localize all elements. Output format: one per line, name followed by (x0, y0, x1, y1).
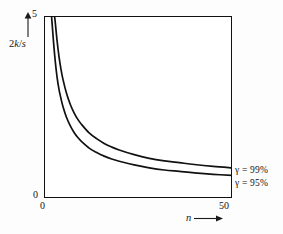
x-axis-tick-min: 0 (40, 201, 45, 211)
y-axis-title: 2k/s (9, 38, 26, 49)
x-axis-title-symbol: n (186, 212, 191, 223)
chart-figure: 2k/s 5 0 0 50 γ = 99% γ = 95% n (0, 0, 283, 234)
x-axis-tick-max: 50 (219, 201, 229, 211)
legend-item-gamma-99: γ = 99% (235, 165, 268, 175)
legend-item-gamma-95: γ = 95% (235, 178, 268, 188)
chart-curves (44, 16, 232, 198)
curve-gamma-99 (55, 16, 232, 168)
curve-gamma-95 (52, 16, 232, 175)
x-axis-title: n (186, 212, 224, 223)
y-axis-tick-min: 0 (33, 190, 38, 200)
y-axis-title-s: s (22, 38, 26, 49)
arrow-right-icon (194, 214, 224, 223)
y-axis-tick-max: 5 (32, 9, 37, 19)
